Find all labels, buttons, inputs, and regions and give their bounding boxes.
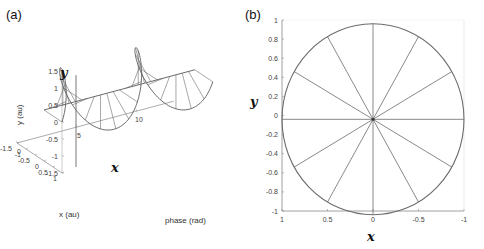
panel-b-y-tick-label: -0.8 xyxy=(266,188,278,195)
panel-a-phase-tick-label: 5 xyxy=(77,132,81,139)
panel-b-y-tick-label: 1 xyxy=(274,17,278,24)
panel-b-spoke xyxy=(373,119,419,202)
panel-b-y-tick-label: 0.2 xyxy=(268,93,278,100)
panel-a-x-tick xyxy=(35,154,37,155)
panel-a-x-label: x (au) xyxy=(59,210,80,219)
panel-b-y-tick-label: -0.2 xyxy=(266,131,278,138)
panel-a-phase-tick-label: 0 xyxy=(17,148,21,155)
panel-a-x-tick-label: -0.5 xyxy=(18,157,30,164)
panel-b-spoke xyxy=(328,119,374,202)
panel-a-phase-label: phase (rad) xyxy=(165,216,206,225)
panel-b-spoke xyxy=(373,37,419,120)
panel-b-y-annotation: y xyxy=(249,94,259,109)
panel-b-spoke xyxy=(294,119,373,167)
panel-a-x-tick-label: -1.5 xyxy=(0,145,12,152)
panel-b-x-tick-label: -1 xyxy=(461,216,467,223)
panel-a-y-tick-label: 1 xyxy=(54,85,58,92)
panel-a-x-tick xyxy=(26,148,28,149)
panel-b-y-tick-label: 0.4 xyxy=(268,74,278,81)
panel-b-x-tick-label: -0.5 xyxy=(412,216,424,223)
panel-a-phase-tick xyxy=(16,141,17,143)
panel-a-x-tick-label: 1 xyxy=(53,175,57,182)
panel-b-spoke xyxy=(328,37,374,120)
panel-b-x-tick-label: 0 xyxy=(371,216,375,223)
panel-a: (a) 1.510.50-0.5-1-1.510.50-0.5-1-1.5051… xyxy=(0,7,213,225)
panel-b: (b) 10.80.60.40.20-0.2-0.4-0.6-0.8-110.5… xyxy=(245,7,467,244)
panel-a-y-annotation: y xyxy=(59,65,69,80)
panel-b-center-point xyxy=(372,118,375,121)
panel-a-spoke xyxy=(195,70,213,82)
panel-b-x-tick-label: 0.5 xyxy=(323,216,333,223)
panel-a-spoke xyxy=(113,92,129,119)
panel-a-y-tick-label: -1 xyxy=(52,153,58,160)
panel-a-spoke xyxy=(161,76,170,99)
panel-a-phase-tick xyxy=(136,109,137,111)
panel-a-x-tick xyxy=(44,160,46,161)
panel-b-label: (b) xyxy=(245,7,261,22)
panel-b-spoke xyxy=(373,72,452,120)
panel-a-spoke xyxy=(119,90,137,102)
panel-a-spoke xyxy=(85,97,94,120)
panel-a-y-tick-label: 1.5 xyxy=(48,68,58,75)
panel-a-spoke xyxy=(182,73,191,108)
panel-a-y-tick-label: 0 xyxy=(54,119,58,126)
panel-a-phase-axis xyxy=(17,101,174,143)
panel-b-y-tick-label: 0.8 xyxy=(268,36,278,43)
panel-a-curve xyxy=(44,48,213,130)
panel-b-y-tick-label: -0.6 xyxy=(266,169,278,176)
panel-a-spoke xyxy=(107,93,116,128)
panel-a-spoke xyxy=(132,63,141,86)
panel-b-curve xyxy=(282,24,464,215)
panel-a-x-tick xyxy=(53,166,55,167)
panel-b-axes: 10.80.60.40.20-0.2-0.4-0.6-0.8-110.50-0.… xyxy=(266,17,467,224)
panel-a-x-tick-label: 0.5 xyxy=(38,169,48,176)
panel-b-spoke xyxy=(373,119,452,167)
panel-b-x-annotation: x xyxy=(366,229,375,244)
panel-b-y-tick-label: -0.4 xyxy=(266,150,278,157)
panel-a-x-tick-label: 0 xyxy=(35,163,39,170)
panel-b-y-tick-label: 0 xyxy=(274,112,278,119)
panel-a-spoke xyxy=(189,71,205,98)
panel-a-spoke xyxy=(136,48,145,83)
panel-a-y-tick-label: -0.5 xyxy=(46,136,58,143)
panel-a-phase-tick-label: 10 xyxy=(135,116,143,123)
panel-a-label: (a) xyxy=(6,7,22,22)
panel-b-spoke xyxy=(294,72,373,120)
panel-a-x-annotation: x xyxy=(110,160,119,175)
panel-a-spoke xyxy=(44,110,62,122)
figure: (a) 1.510.50-0.5-1-1.510.50-0.5-1-1.5051… xyxy=(0,0,484,249)
panel-a-y-label: y (au) xyxy=(15,104,24,125)
panel-b-y-tick-label: -1 xyxy=(272,208,278,215)
panel-b-y-tick-label: 0.6 xyxy=(268,55,278,62)
panel-b-x-tick-label: 1 xyxy=(280,216,284,223)
